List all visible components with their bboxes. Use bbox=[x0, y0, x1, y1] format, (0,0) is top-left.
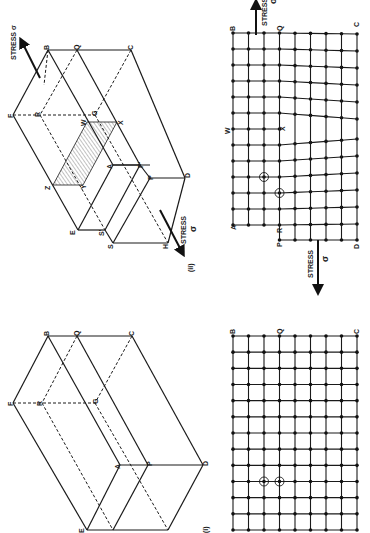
lattice-atom bbox=[293, 464, 297, 468]
lattice-atom bbox=[309, 350, 313, 354]
i-label-G: G bbox=[92, 398, 99, 404]
label-H: H bbox=[162, 244, 169, 249]
lattice-atom bbox=[293, 367, 297, 371]
lattice-atom bbox=[309, 334, 313, 338]
lattice-atom bbox=[355, 528, 359, 532]
lattice-atom bbox=[309, 512, 313, 516]
label-S-prime: S' bbox=[98, 229, 105, 236]
lattice-atom bbox=[231, 431, 235, 435]
lattice-atom bbox=[231, 447, 235, 451]
stress-label-bottom: STRESS bbox=[180, 216, 187, 244]
lattice-atom bbox=[340, 334, 344, 338]
i-label-F: F bbox=[7, 401, 14, 406]
i-label-P: P bbox=[146, 461, 153, 466]
lattice-atom bbox=[293, 383, 297, 387]
stress-label-top: STRESS σ bbox=[10, 25, 17, 60]
lattice-sigma-top: σ bbox=[268, 0, 278, 4]
lattice-atom bbox=[309, 447, 313, 451]
lattice-atom bbox=[278, 464, 282, 468]
panel-i-lattice bbox=[231, 334, 359, 532]
lattice-atom bbox=[355, 512, 359, 516]
lattice-i-label-Q: Q bbox=[276, 328, 284, 334]
label-G: G bbox=[91, 110, 98, 116]
lattice-atom bbox=[324, 447, 328, 451]
lattice-atom bbox=[355, 447, 359, 451]
lattice-i-label-C: C bbox=[353, 329, 360, 334]
lattice-atom bbox=[309, 528, 313, 532]
lattice-atom bbox=[231, 464, 235, 468]
lattice-atom bbox=[247, 480, 251, 484]
lattice-atom bbox=[278, 399, 282, 403]
lattice-atom bbox=[247, 415, 251, 419]
lattice-atom bbox=[231, 528, 235, 532]
label-E: E bbox=[69, 230, 76, 235]
lattice-atom bbox=[262, 399, 266, 403]
lattice-atom bbox=[262, 350, 266, 354]
label-F: F bbox=[7, 113, 14, 118]
lattice-atom bbox=[231, 480, 235, 484]
lattice-atom bbox=[340, 367, 344, 371]
lattice-atom bbox=[293, 334, 297, 338]
lattice-atom bbox=[262, 480, 266, 484]
lattice-atom bbox=[262, 415, 266, 419]
lattice-atom bbox=[293, 480, 297, 484]
lattice-atom bbox=[309, 383, 313, 387]
lattice-atom bbox=[278, 383, 282, 387]
lattice-atom bbox=[355, 480, 359, 484]
lattice-ii-label-P: P bbox=[276, 242, 283, 247]
panel-ii-block bbox=[13, 42, 185, 252]
lattice-atom bbox=[278, 367, 282, 371]
i-label-R: R bbox=[36, 401, 43, 406]
lattice-atom bbox=[247, 447, 251, 451]
label-R: R bbox=[34, 112, 41, 117]
lattice-atom bbox=[324, 512, 328, 516]
lattice-atom bbox=[340, 528, 344, 532]
label-C: C bbox=[127, 45, 134, 50]
lattice-atom bbox=[324, 367, 328, 371]
lattice-atom bbox=[309, 496, 313, 500]
dislocation-figure: STRESS σ F B Q C R G W X Z Y A P' P E S'… bbox=[0, 0, 370, 533]
label-W: W bbox=[80, 119, 87, 126]
caption-ii: (ii) bbox=[187, 263, 195, 272]
lattice-atom bbox=[293, 447, 297, 451]
panel-ii-lattice bbox=[231, 31, 359, 242]
label-B: B bbox=[43, 45, 50, 50]
lattice-atom bbox=[340, 431, 344, 435]
label-Y: Y bbox=[80, 184, 87, 189]
label-X: X bbox=[117, 120, 124, 125]
lattice-atom bbox=[231, 512, 235, 516]
i-label-C: C bbox=[128, 331, 135, 336]
lattice-atom bbox=[262, 367, 266, 371]
lattice-atom bbox=[340, 496, 344, 500]
i-label-B: B bbox=[43, 331, 50, 336]
lattice-atom bbox=[247, 464, 251, 468]
lattice-atom bbox=[309, 464, 313, 468]
lattice-ii-label-R: R bbox=[276, 228, 283, 233]
lattice-atom bbox=[324, 334, 328, 338]
panel-i-block-labels: F B Q C R G A P D E (i) bbox=[7, 330, 210, 533]
i-label-D: D bbox=[202, 461, 209, 466]
lattice-atom bbox=[231, 399, 235, 403]
lattice-atom bbox=[247, 512, 251, 516]
i-label-A: A bbox=[114, 464, 121, 469]
i-label-E: E bbox=[78, 528, 85, 533]
lattice-atom bbox=[355, 496, 359, 500]
sigma-symbol-bottom: σ bbox=[188, 226, 198, 232]
lattice-atom bbox=[293, 496, 297, 500]
lattice-atom bbox=[262, 464, 266, 468]
lattice-atom bbox=[247, 528, 251, 532]
lattice-atom bbox=[293, 528, 297, 532]
lattice-atom bbox=[262, 528, 266, 532]
lattice-atom bbox=[262, 334, 266, 338]
lattice-atom bbox=[247, 399, 251, 403]
lattice-ii-label-X: X bbox=[279, 126, 286, 131]
lattice-atom bbox=[278, 496, 282, 500]
label-A: A bbox=[106, 164, 113, 169]
lattice-atom bbox=[293, 431, 297, 435]
lattice-atom bbox=[324, 496, 328, 500]
lattice-atom bbox=[262, 383, 266, 387]
lattice-atom bbox=[324, 480, 328, 484]
lattice-atom bbox=[309, 415, 313, 419]
lattice-ii-label-A: A bbox=[230, 225, 237, 230]
lattice-atom bbox=[278, 512, 282, 516]
